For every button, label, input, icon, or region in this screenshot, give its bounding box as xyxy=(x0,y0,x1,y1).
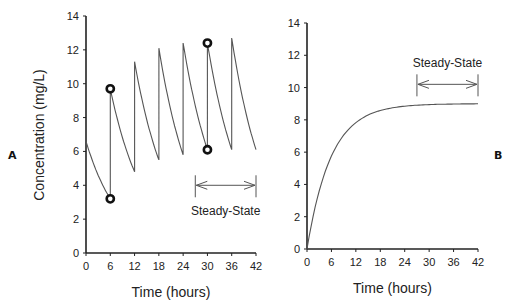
y-tick-label: 0 xyxy=(294,243,300,255)
x-axis-label: Time (hours) xyxy=(353,280,432,296)
x-tick-label: 12 xyxy=(350,256,362,268)
steady-state-label: Steady-State xyxy=(413,56,483,70)
data-point-marker xyxy=(204,146,211,153)
y-tick-label: 8 xyxy=(294,114,300,126)
x-tick-label: 42 xyxy=(472,256,484,268)
x-tick-label: 6 xyxy=(328,256,334,268)
y-tick-label: 2 xyxy=(294,211,300,223)
y-tick-label: 4 xyxy=(294,178,300,190)
data-point-marker xyxy=(107,85,114,92)
x-tick-label: 0 xyxy=(304,256,310,268)
y-tick-label: 10 xyxy=(67,78,79,90)
y-tick-label: 4 xyxy=(73,179,79,191)
y-tick-label: 12 xyxy=(288,49,300,61)
x-tick-label: 24 xyxy=(399,256,411,268)
x-tick-label: 42 xyxy=(250,260,262,272)
x-tick-label: 6 xyxy=(107,260,113,272)
x-tick-label: 36 xyxy=(226,260,238,272)
steady-state-annotation: Steady-State xyxy=(191,175,261,218)
concentration-line xyxy=(307,104,478,249)
y-tick-label: 6 xyxy=(294,146,300,158)
pharmacokinetics-figure: 0246810121406121824303642Time (hours)Ste… xyxy=(0,0,506,308)
steady-state-label: Steady-State xyxy=(191,204,261,218)
x-tick-label: 12 xyxy=(128,260,140,272)
x-tick-label: 18 xyxy=(153,260,165,272)
x-tick-label: 30 xyxy=(201,260,213,272)
panel-label-a: A xyxy=(8,149,17,162)
panel-a: 0246810121406121824303642Time (hours)Ste… xyxy=(67,10,262,300)
y-tick-label: 0 xyxy=(73,247,79,259)
concentration-line xyxy=(86,38,256,199)
y-tick-label: 12 xyxy=(67,44,79,56)
y-tick-label: 8 xyxy=(73,112,79,124)
steady-state-annotation: Steady-State xyxy=(413,56,483,96)
x-tick-label: 0 xyxy=(83,260,89,272)
data-point-marker xyxy=(204,39,211,46)
x-tick-label: 24 xyxy=(177,260,189,272)
y-tick-label: 14 xyxy=(67,10,79,22)
panel-label-b: B xyxy=(494,149,502,162)
x-axis-label: Time (hours) xyxy=(132,284,211,300)
y-axis-label: Concentration (mg/L) xyxy=(31,69,47,201)
y-tick-label: 2 xyxy=(73,213,79,225)
panel-b: 0246810121406121824303642Time (hours)Ste… xyxy=(288,17,484,296)
x-tick-label: 18 xyxy=(374,256,386,268)
data-point-marker xyxy=(107,195,114,202)
y-tick-label: 6 xyxy=(73,145,79,157)
y-tick-label: 14 xyxy=(288,17,300,29)
x-tick-label: 36 xyxy=(447,256,459,268)
x-tick-label: 30 xyxy=(423,256,435,268)
y-tick-label: 10 xyxy=(288,82,300,94)
